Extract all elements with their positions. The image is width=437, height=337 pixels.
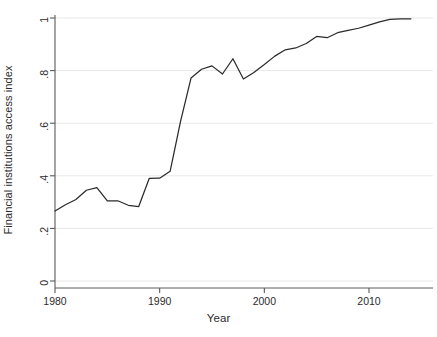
axis-lines-group: [55, 15, 433, 288]
y-axis-title-text: Financial institutions access index: [2, 65, 14, 234]
x-axis-title: Year: [0, 312, 437, 324]
y-axis-title: Financial institutions access index: [0, 18, 16, 281]
tick-marks-group: [50, 18, 369, 293]
y-tick-label: 1: [38, 17, 50, 35]
y-tick-label: .8: [38, 70, 50, 88]
chart-container: Financial institutions access index Year…: [0, 0, 437, 337]
x-tick-label: 1990: [136, 295, 184, 307]
y-tick-label: .2: [38, 227, 50, 245]
series-line: [55, 19, 411, 211]
x-tick-label: 2010: [345, 295, 393, 307]
x-tick-label: 2000: [240, 295, 288, 307]
data-series-group: [55, 19, 411, 211]
y-tick-label: .4: [38, 175, 50, 193]
line-chart-plot: [0, 0, 437, 337]
y-tick-label: .6: [38, 122, 50, 140]
x-axis-title-text: Year: [207, 312, 231, 324]
gridlines-group: [55, 18, 433, 281]
x-tick-label: 1980: [31, 295, 79, 307]
